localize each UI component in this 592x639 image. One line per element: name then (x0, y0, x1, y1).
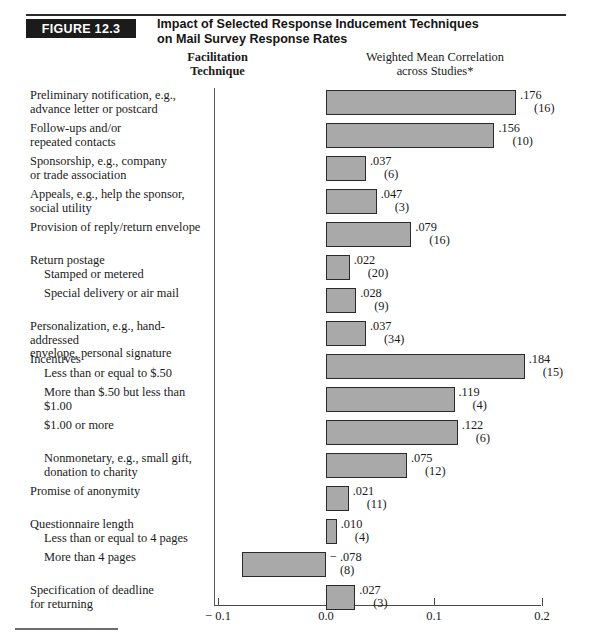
x-axis-tick-label-1: 0.0 (318, 609, 334, 624)
bar (326, 255, 350, 280)
row-label-line: or trade association (30, 169, 210, 183)
row-label: Promise of anonymity (30, 485, 210, 499)
row-label: Follow-ups and/orrepeated contacts (30, 122, 210, 149)
row-label-line: Nonmonetary, e.g., small gift, (44, 452, 214, 466)
footnote-rule (15, 628, 118, 630)
bar-study-count: (4) (341, 531, 369, 544)
column-heading-right-line-1: Weighted Mean Correlation (300, 50, 570, 64)
row-label-line: Less than or equal to 4 pages (30, 532, 210, 546)
row-label-line: $1.00 or more (44, 419, 214, 433)
bar-study-count: (15) (529, 366, 564, 379)
bar-value-label: .010(4) (341, 518, 369, 544)
bar-study-count: (6) (370, 168, 398, 181)
row-label: Appeals, e.g., help the sponsor,social u… (30, 188, 210, 215)
row-label: Questionnaire lengthLess than or equal t… (30, 518, 210, 545)
x-axis-tick-label-0: − 0.1 (205, 609, 231, 624)
bar-study-count: (12) (411, 465, 446, 478)
bar (326, 453, 407, 478)
bar-study-count: (16) (520, 102, 555, 115)
row-label-line: Return postage (30, 254, 210, 268)
bar-study-count: (3) (359, 597, 387, 610)
row-label-line: Less than or equal to $.50 (30, 367, 210, 381)
row-label-line: Stamped or metered (30, 268, 210, 282)
bar (326, 486, 349, 511)
x-axis-tick-label-2: 0.1 (426, 609, 442, 624)
bar (326, 222, 411, 247)
row-label: More than $.50 but less than $1.00 (44, 386, 214, 413)
x-axis-tick-2 (434, 598, 435, 606)
bar-value-label: .027(3) (359, 584, 387, 610)
row-label: Sponsorship, e.g., companyor trade assoc… (30, 155, 210, 182)
bar-value-label: − .078(8) (330, 551, 362, 577)
bar (326, 585, 355, 610)
row-label-line: Questionnaire length (30, 518, 210, 532)
row-label: Return postageStamped or metered (30, 254, 210, 281)
bar-value-label: .075(12) (411, 452, 446, 478)
row-label-line: Personalization, e.g., hand-addressed (30, 320, 210, 347)
bar (326, 156, 366, 181)
row-label: IncentivesLess than or equal to $.50 (30, 353, 210, 380)
row-label: Special delivery or air mail (44, 287, 214, 301)
row-label: Preliminary notification, e.g.,advance l… (30, 89, 210, 116)
bar (326, 90, 516, 115)
bar (326, 519, 337, 544)
x-axis-tick-label-3: 0.2 (534, 609, 550, 624)
bar-value-label: .079(16) (415, 221, 450, 247)
bar-study-count: (9) (360, 300, 388, 313)
bar-study-count: (10) (498, 135, 533, 148)
row-label: Provision of reply/return envelope (30, 221, 210, 235)
bar-study-count: (4) (459, 399, 487, 412)
row-label-line: advance letter or postcard (30, 103, 210, 117)
row-label-line: Provision of reply/return envelope (30, 221, 210, 235)
row-label: More than 4 pages (44, 551, 214, 565)
bar-value-label: .037(6) (370, 155, 398, 181)
bar (242, 552, 326, 577)
bar (326, 354, 525, 379)
row-label-line: repeated contacts (30, 136, 210, 150)
column-heading-left-line-2: Technique (145, 64, 290, 78)
bar-value-label: .119(4) (459, 386, 487, 412)
bar-study-count: (11) (353, 498, 387, 511)
column-heading-left-line-1: Facilitation (145, 50, 290, 64)
row-label-line: More than $.50 but less than $1.00 (44, 386, 214, 413)
row-label-line: for returning (30, 598, 210, 612)
row-label-line: Follow-ups and/or (30, 122, 210, 136)
bar (326, 321, 366, 346)
bar (326, 123, 494, 148)
bar-study-count: (8) (330, 564, 362, 577)
bar-value-label: .037(34) (370, 320, 405, 346)
bar-value-label: .184(15) (529, 353, 564, 379)
row-label: Specification of deadlinefor returning (30, 584, 210, 611)
bar (326, 420, 458, 445)
bar-study-count: (20) (354, 267, 389, 280)
row-label-line: Promise of anonymity (30, 485, 210, 499)
column-heading-weighted-mean-correlation: Weighted Mean Correlation across Studies… (300, 50, 570, 78)
figure-title-line-2: on Mail Survey Response Rates (157, 32, 557, 47)
x-axis-tick-0 (218, 598, 219, 606)
x-axis-tick-3 (542, 598, 543, 606)
bar-study-count: (34) (370, 333, 405, 346)
row-label: Nonmonetary, e.g., small gift,donation t… (44, 452, 214, 479)
column-heading-facilitation-technique: Facilitation Technique (145, 50, 290, 78)
row-label-line: donation to charity (44, 466, 214, 480)
column-heading-right-line-2: across Studies* (300, 64, 570, 78)
row-label-line: More than 4 pages (44, 551, 214, 565)
bar (326, 288, 356, 313)
bar (326, 189, 377, 214)
row-label-line: Sponsorship, e.g., company (30, 155, 210, 169)
row-label-line: social utility (30, 202, 210, 216)
row-label-line: Incentives (30, 353, 210, 367)
figure-number-badge: FIGURE 12.3 (26, 19, 136, 38)
figure-title: Impact of Selected Response Inducement T… (157, 17, 557, 47)
row-label-line: Special delivery or air mail (44, 287, 214, 301)
header-top-rule (26, 14, 566, 16)
bar-study-count: (6) (462, 432, 490, 445)
bar-value-label: .021(11) (353, 485, 387, 511)
row-label-line: Specification of deadline (30, 584, 210, 598)
bar-study-count: (3) (381, 201, 409, 214)
bar-value-label: .176(16) (520, 89, 555, 115)
bar-study-count: (16) (415, 234, 450, 247)
row-label-line: Preliminary notification, e.g., (30, 89, 210, 103)
vertical-separator-line (214, 88, 215, 606)
bar-value-label: .028(9) (360, 287, 388, 313)
